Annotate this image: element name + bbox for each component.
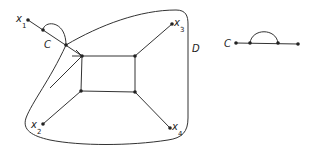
node-rect-tl — [80, 54, 84, 58]
edge-x3 — [135, 24, 172, 56]
curve-c-segment — [28, 20, 82, 56]
region-d-boundary — [25, 10, 188, 145]
right-node-3 — [276, 41, 280, 45]
right-node-4 — [296, 42, 300, 46]
edge-x2 — [43, 91, 81, 124]
node-x1 — [26, 18, 30, 22]
node-c2 — [64, 43, 68, 47]
node-rect-bl — [79, 89, 83, 93]
label-x2-sub: 2 — [37, 128, 41, 136]
label-x2: x — [30, 119, 37, 130]
right-node-1 — [234, 41, 238, 45]
label-x4-sub: 4 — [178, 130, 183, 138]
edge-extension — [50, 56, 82, 88]
label-d: D — [192, 43, 200, 54]
diagram-canvas: x 1 C x 3 D x 2 x 4 C — [0, 0, 316, 154]
node-x2 — [41, 122, 45, 126]
right-label-c: C — [224, 38, 231, 49]
label-c: C — [44, 39, 51, 50]
label-x3: x — [173, 17, 180, 28]
node-c1 — [41, 28, 45, 32]
label-x1-sub: 1 — [22, 22, 26, 30]
center-rectangle — [81, 56, 135, 92]
right-node-2 — [248, 41, 252, 45]
edge-x4 — [135, 92, 170, 128]
node-rect-br — [133, 90, 137, 94]
label-x1: x — [15, 13, 22, 24]
node-rect-tr — [133, 54, 137, 58]
right-curve-c-arc — [250, 32, 278, 43]
label-x4: x — [171, 121, 178, 132]
label-x3-sub: 3 — [180, 26, 184, 34]
right-curve-c-line — [236, 43, 298, 44]
